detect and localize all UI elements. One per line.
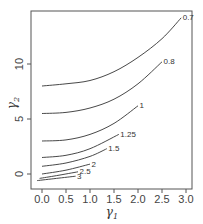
y-axis-title: γ2 — [5, 97, 21, 109]
contour-label-1.25: 1.25 — [120, 130, 136, 139]
contour-line-3 — [37, 176, 75, 180]
contour-line-0.7 — [42, 18, 181, 86]
x-axis: 0.00.51.01.52.02.53.0 — [34, 189, 193, 205]
contour-label-1: 1 — [140, 101, 145, 110]
contour-label-0.7: 0.7 — [183, 13, 195, 22]
contour-label-3: 3 — [77, 172, 82, 181]
contour-line-1.25 — [42, 134, 119, 157]
contour-line-0.8 — [42, 62, 162, 114]
x-axis-title: γ1 — [106, 205, 118, 221]
contour-label-1.5: 1.5 — [108, 144, 120, 153]
x-tick-label: 1.5 — [106, 193, 121, 205]
contour-curves — [37, 18, 181, 181]
contour-label-0.8: 0.8 — [164, 57, 176, 66]
x-tick-label: 0.5 — [58, 193, 73, 205]
x-tick-label: 2.5 — [154, 193, 169, 205]
contour-labels: 0.70.811.251.522.53 — [77, 13, 194, 180]
x-tick-label: 1.0 — [82, 193, 97, 205]
x-tick-label: 3.0 — [178, 193, 193, 205]
x-tick-label: 0.0 — [34, 193, 49, 205]
x-tick-label: 2.0 — [130, 193, 145, 205]
y-axis: 0510 — [13, 58, 31, 177]
y-tick-label: 5 — [13, 116, 25, 122]
y-tick-label: 10 — [13, 58, 25, 70]
contour-label-2: 2 — [92, 160, 97, 169]
contour-line-2.5 — [40, 172, 78, 179]
contour-chart: 0.00.51.01.52.02.53.0 0510 0.70.811.251.… — [0, 0, 203, 224]
y-tick-label: 0 — [13, 171, 25, 177]
contour-line-1.5 — [42, 149, 107, 167]
